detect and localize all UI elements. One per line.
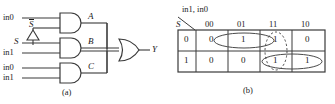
and-gate-bottom-body bbox=[60, 63, 81, 83]
kmap-col-header-00: 00 bbox=[205, 20, 214, 29]
inverter-triangle bbox=[27, 30, 39, 40]
kmap-cell-r0c3: 0 bbox=[305, 35, 310, 44]
kmap-cell-r0c1: 1 bbox=[241, 35, 246, 44]
sbar-overbar-text: S bbox=[29, 19, 34, 29]
figure-container: in0 S S in1 in0 in1 A B C Y (a) in1, in0… bbox=[0, 0, 335, 104]
circuit-and-kmap-vector bbox=[0, 0, 335, 104]
kmap-col-header-01: 01 bbox=[237, 20, 246, 29]
output-label-A: A bbox=[88, 12, 94, 21]
input-label-in0-top: in0 bbox=[3, 13, 14, 22]
output-label-Y: Y bbox=[152, 45, 157, 54]
caption-panel-a: (a) bbox=[62, 88, 71, 97]
kmap-cell-r0c0: 0 bbox=[209, 35, 214, 44]
and-gate-middle-body bbox=[60, 38, 81, 58]
input-label-sbar-top: S bbox=[29, 19, 34, 29]
and-gate-top-body bbox=[60, 13, 81, 33]
kmap-cell-r0c2: 1 bbox=[273, 35, 278, 44]
kmap-col-header-10: 10 bbox=[301, 20, 310, 29]
kmap-cell-r1c3: 1 bbox=[305, 56, 310, 65]
panel-a-circuit bbox=[22, 13, 150, 83]
kmap-cell-r1c1: 0 bbox=[241, 56, 246, 65]
output-label-C: C bbox=[88, 62, 94, 71]
kmap-row-header-1: 1 bbox=[184, 56, 189, 65]
input-label-in1-bottom: in1 bbox=[3, 73, 14, 82]
input-label-S-middle: S bbox=[14, 37, 19, 46]
or-gate-body bbox=[119, 39, 139, 61]
kmap-cell-r1c2: 1 bbox=[273, 56, 278, 65]
output-label-B: B bbox=[88, 37, 94, 46]
input-label-in1-middle: in1 bbox=[3, 48, 14, 57]
caption-panel-b: (b) bbox=[243, 86, 253, 95]
kmap-col-header-title: in1, in0 bbox=[182, 5, 208, 14]
kmap-col-header-11: 11 bbox=[269, 20, 277, 29]
input-label-in0-bottom: in0 bbox=[3, 63, 14, 72]
kmap-row-header-0: 0 bbox=[184, 35, 189, 44]
kmap-row-header-title: S bbox=[176, 20, 181, 29]
kmap-cell-r1c0: 0 bbox=[209, 56, 214, 65]
